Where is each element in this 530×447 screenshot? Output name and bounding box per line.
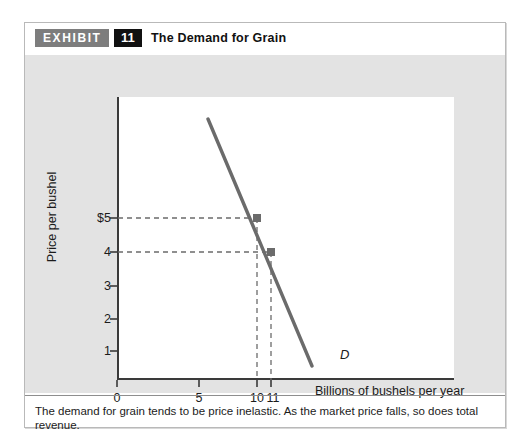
x-tick-label-5: 5: [184, 391, 214, 405]
y-tick-3: 3: [77, 279, 111, 293]
y-axis-title: Price per bushel: [45, 162, 59, 272]
y-tick-marks: [110, 218, 117, 351]
y-tick-4: 4: [77, 245, 111, 259]
y-tick-label-5: $5: [97, 211, 111, 225]
exhibit-number-badge: 11: [114, 29, 142, 47]
y-tick-2: 2: [77, 312, 111, 326]
data-point-price-5: [253, 214, 261, 222]
y-tick-label-3: 3: [104, 279, 111, 293]
exhibit-figure: EXHIBIT 11 The Demand for Grain: [24, 22, 506, 428]
y-tick-5: $5: [77, 211, 111, 225]
exhibit-title: The Demand for Grain: [151, 31, 286, 45]
exhibit-caption: The demand for grain tends to be price i…: [35, 404, 497, 432]
y-tick-label-2: 2: [104, 312, 111, 326]
x-tick-label-11: 11: [258, 391, 288, 405]
y-tick-1: 1: [77, 344, 111, 358]
y-tick-label-4: 4: [104, 245, 111, 259]
exhibit-tag-badge: EXHIBIT: [35, 29, 109, 47]
x-tick-marks: [117, 380, 271, 387]
caption-divider: [25, 395, 505, 396]
chart-panel: $5 4 3 2 1 0 5 10 11 Price per bushel Bi…: [25, 55, 505, 393]
guide-lines: [118, 218, 271, 380]
exhibit-header: EXHIBIT 11 The Demand for Grain: [25, 23, 505, 55]
x-tick-label-0: 0: [102, 391, 132, 405]
demand-curve-label: D: [340, 347, 349, 362]
y-tick-label-1: 1: [104, 344, 111, 358]
data-point-price-4: [267, 248, 275, 256]
demand-curve: [208, 119, 312, 366]
